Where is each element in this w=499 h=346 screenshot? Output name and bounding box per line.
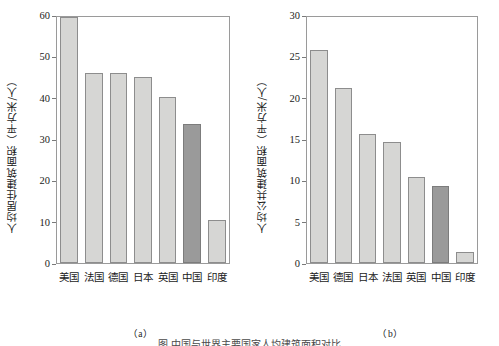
bar-美国 bbox=[310, 50, 327, 263]
bar-series-a bbox=[57, 17, 229, 263]
bar-德国 bbox=[335, 88, 352, 263]
plot-area-b: 051015202530 美国德国日本法国英国中国印度 bbox=[274, 16, 478, 286]
x-label-中国: 中国 bbox=[428, 269, 452, 284]
bar-slot bbox=[404, 17, 428, 263]
x-label-英国: 英国 bbox=[404, 269, 428, 284]
bar-中国 bbox=[432, 186, 449, 263]
bar-英国 bbox=[159, 97, 177, 263]
x-label-日本: 日本 bbox=[356, 269, 380, 284]
tick-label: 0 bbox=[295, 257, 300, 270]
plot-area-a: 0102030405060 美国法国德国日本英国中国印度 bbox=[24, 16, 230, 286]
bar-slot bbox=[57, 17, 82, 263]
bar-印度 bbox=[456, 252, 473, 263]
tick-label: 5 bbox=[295, 216, 300, 229]
bar-中国 bbox=[183, 124, 201, 263]
x-label-英国: 英国 bbox=[155, 269, 180, 284]
bar-slot bbox=[356, 17, 380, 263]
bar-日本 bbox=[134, 77, 152, 263]
tick-label: 20 bbox=[290, 92, 301, 105]
bar-日本 bbox=[359, 134, 376, 263]
bar-slot bbox=[453, 17, 477, 263]
y-axis-label-a: 人均居住建筑面积（平方米/人） bbox=[2, 28, 20, 280]
bar-美国 bbox=[60, 17, 78, 263]
chart-panel-b: 人均公共建筑面积（平方米/人） 051015202530 美国德国日本法国英国中… bbox=[250, 0, 499, 344]
bar-slot bbox=[180, 17, 205, 263]
tick-label: 10 bbox=[290, 174, 301, 187]
bar-slot bbox=[82, 17, 107, 263]
y-axis-ticks-a: 0102030405060 bbox=[24, 16, 56, 264]
x-label-德国: 德国 bbox=[331, 269, 355, 284]
chart-panel-a: 人均居住建筑面积（平方米/人） 0102030405060 美国法国德国日本英国… bbox=[0, 0, 249, 344]
x-label-美国: 美国 bbox=[57, 269, 82, 284]
tick-label: 30 bbox=[290, 9, 301, 22]
x-label-日本: 日本 bbox=[131, 269, 156, 284]
bar-slot bbox=[307, 17, 331, 263]
tick-label: 60 bbox=[40, 9, 51, 22]
y-axis-ticks-b: 051015202530 bbox=[274, 16, 306, 264]
bar-series-b bbox=[307, 17, 477, 263]
tick-label: 20 bbox=[40, 174, 51, 187]
tick-label: 30 bbox=[40, 133, 51, 146]
figure-caption: 图 中国与世界主要国家人均建筑面积对比 bbox=[0, 336, 499, 346]
bar-slot bbox=[380, 17, 404, 263]
x-label-印度: 印度 bbox=[204, 269, 229, 284]
tick-label: 40 bbox=[40, 92, 51, 105]
x-axis-labels-b: 美国德国日本法国英国中国印度 bbox=[307, 266, 477, 286]
y-axis-label-b: 人均公共建筑面积（平方米/人） bbox=[252, 28, 270, 280]
x-label-印度: 印度 bbox=[453, 269, 477, 284]
bar-英国 bbox=[408, 177, 425, 263]
tick-label: 10 bbox=[40, 216, 51, 229]
x-axis-labels-a: 美国法国德国日本英国中国印度 bbox=[57, 266, 229, 286]
bar-德国 bbox=[110, 73, 128, 263]
bar-slot bbox=[106, 17, 131, 263]
x-label-法国: 法国 bbox=[82, 269, 107, 284]
bar-slot bbox=[131, 17, 156, 263]
bar-slot bbox=[331, 17, 355, 263]
tick-label: 50 bbox=[40, 50, 51, 63]
x-label-美国: 美国 bbox=[307, 269, 331, 284]
tick-label: 25 bbox=[290, 50, 301, 63]
x-label-法国: 法国 bbox=[380, 269, 404, 284]
bar-印度 bbox=[208, 220, 226, 263]
x-label-中国: 中国 bbox=[180, 269, 205, 284]
x-label-德国: 德国 bbox=[106, 269, 131, 284]
bar-法国 bbox=[383, 142, 400, 263]
bar-slot bbox=[428, 17, 452, 263]
tick-label: 0 bbox=[45, 257, 50, 270]
bar-法国 bbox=[85, 73, 103, 263]
bar-slot bbox=[204, 17, 229, 263]
bar-slot bbox=[155, 17, 180, 263]
tick-label: 15 bbox=[290, 133, 301, 146]
